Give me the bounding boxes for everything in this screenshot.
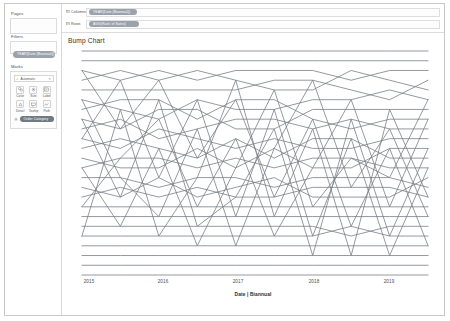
pages-drop-area[interactable] (10, 18, 57, 34)
pages-shelf: Pages (10, 11, 57, 34)
marks-button-size-label: Size (27, 94, 40, 98)
marks-card-body: ✓ Automatic ▾ Color (10, 71, 57, 129)
chart-line (82, 226, 428, 236)
marks-button-detail[interactable]: Detail (14, 99, 27, 113)
x-axis-tick-label: 2017 (233, 279, 244, 284)
main-panel: Columns YEAR(Date (Biannual)) Rows (62, 4, 444, 315)
marks-button-label-label: Label (40, 94, 53, 98)
chart-line (82, 226, 428, 236)
detail-icon (16, 100, 24, 108)
rows-shelf-label-group: Rows (66, 22, 86, 27)
sidebar: Pages Filters YEAR(Date (Biannual)) Mark… (5, 4, 62, 315)
chart-line (82, 129, 428, 148)
x-axis: 20152016201720182019 Date | Biannual (62, 279, 444, 309)
x-axis-title: Date | Biannual (62, 292, 444, 297)
marks-button-grid: Color Size (14, 85, 54, 113)
marks-button-label[interactable]: Label (40, 85, 53, 99)
columns-shelf: Columns YEAR(Date (Biannual)) (66, 7, 440, 17)
rows-pill[interactable]: AGG(Rank of Sales) (89, 21, 139, 27)
x-axis-tick-label: 2015 (84, 279, 95, 284)
marks-detail-pill[interactable]: Order Category (20, 116, 54, 122)
chart-region: Bump Chart 20152016201720182019 Date | B… (62, 33, 444, 315)
rows-shelf: Rows AGG(Rank of Sales) (66, 19, 440, 29)
chart-line (82, 70, 428, 89)
columns-shelf-label-group: Columns (66, 10, 86, 15)
marks-card: Marks ✓ Automatic ▾ (10, 64, 57, 129)
marks-button-tooltip-label: Tooltip (27, 109, 40, 113)
label-icon (43, 86, 51, 94)
marks-pill-row: Order Category (14, 116, 54, 122)
marks-button-color[interactable]: Color (14, 85, 27, 99)
rows-drop-area[interactable]: AGG(Rank of Sales) (86, 20, 440, 29)
filters-shelf-label: Filters (11, 34, 57, 39)
detail-icon-small (14, 116, 19, 121)
x-axis-tick-label: 2019 (384, 279, 395, 284)
chevron-down-icon: ▾ (49, 76, 51, 83)
x-axis-tick-label: 2018 (309, 279, 320, 284)
marks-button-size[interactable]: Size (27, 85, 40, 99)
marks-button-path-label: Path (40, 109, 53, 113)
marks-button-path[interactable]: Path (40, 99, 53, 113)
marks-button-tooltip[interactable]: Tooltip (27, 99, 40, 113)
marks-button-detail-label: Detail (14, 109, 27, 113)
filters-drop-area[interactable]: YEAR(Date (Biannual)) (10, 41, 57, 54)
columns-label: Columns (71, 10, 86, 14)
tooltip-icon (29, 100, 37, 108)
mark-type-value: Automatic (21, 77, 36, 81)
color-palette-icon (16, 86, 24, 94)
chart-line (82, 80, 428, 99)
columns-pill[interactable]: YEAR(Date (Biannual)) (89, 9, 137, 15)
application-window: Pages Filters YEAR(Date (Biannual)) Mark… (4, 3, 445, 316)
filters-shelf: Filters YEAR(Date (Biannual)) (10, 34, 57, 54)
bump-chart-plot[interactable] (62, 47, 444, 279)
chart-line (82, 70, 428, 80)
shelf-bar: Columns YEAR(Date (Biannual)) Rows (62, 4, 444, 33)
pages-shelf-label: Pages (11, 11, 57, 16)
x-axis-tick-label: 2016 (158, 279, 169, 284)
rows-icon (66, 22, 70, 27)
mark-type-dropdown[interactable]: ✓ Automatic ▾ (14, 75, 54, 82)
marks-card-label: Marks (11, 64, 57, 69)
chart-title: Bump Chart (68, 37, 105, 44)
size-icon (29, 86, 37, 94)
columns-icon (66, 10, 70, 15)
columns-drop-area[interactable]: YEAR(Date (Biannual)) (86, 8, 440, 17)
path-icon (43, 100, 51, 108)
marks-button-color-label: Color (14, 94, 27, 98)
check-icon: ✓ (16, 76, 19, 83)
filter-pill[interactable]: YEAR(Date (Biannual)) (13, 51, 55, 57)
rows-label: Rows (71, 22, 80, 26)
